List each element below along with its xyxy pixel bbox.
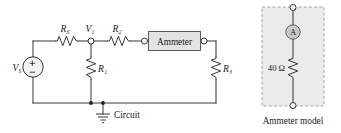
resistor-r3-label-sub: 3	[228, 69, 232, 75]
voltage-source: V S	[13, 57, 44, 77]
resistor-r2-label-sub: 2	[119, 29, 122, 35]
ammeter-meter-symbol: A	[286, 25, 300, 39]
circuit-figure: V S R S V 1 R 2	[0, 0, 341, 133]
ammeter-left-terminal	[142, 38, 148, 44]
ammeter-model-top-terminal	[290, 5, 296, 11]
voltage-source-circle	[23, 57, 43, 77]
ammeter-meter-label: A	[290, 27, 297, 37]
junction-dot-r1	[89, 101, 93, 105]
resistor-r1: R 1	[86, 56, 107, 80]
resistor-r1-zigzag	[86, 56, 95, 80]
node-v1-terminal	[88, 38, 94, 44]
ammeter-model-caption: Ammeter model	[263, 116, 324, 126]
ammeter-box-label: Ammeter	[157, 37, 193, 47]
circuit-caption: Circuit	[114, 110, 140, 120]
resistor-rs-label-sub: S	[67, 29, 70, 35]
resistor-r3: R 3	[211, 56, 232, 80]
ammeter-model-bottom-terminal	[290, 103, 296, 109]
circuit-wires	[33, 41, 216, 114]
resistor-r1-label-sub: 1	[104, 69, 107, 75]
resistor-r2: R 2	[107, 24, 131, 46]
ammeter-right-terminal	[201, 38, 207, 44]
circuit-panel: V S R S V 1 R 2	[13, 24, 233, 123]
resistor-r1-label: R	[97, 64, 104, 74]
node-v1-label-sub: 1	[92, 29, 95, 35]
resistor-rs-zigzag	[55, 36, 79, 45]
resistor-r2-zigzag	[107, 36, 131, 45]
resistor-rs-label: R	[60, 24, 67, 34]
resistor-r2-label: R	[112, 24, 119, 34]
resistor-r3-label: R	[222, 64, 229, 74]
figure-root: V S R S V 1 R 2	[0, 0, 341, 133]
ammeter-box[interactable]: Ammeter	[142, 32, 208, 51]
resistor-internal-value: 40 Ω	[268, 63, 285, 73]
voltage-source-label-sub: S	[19, 68, 22, 74]
junction-dot-ground	[101, 101, 105, 105]
resistor-rs: R S	[55, 24, 79, 46]
resistor-r3-zigzag	[211, 56, 220, 80]
ground-symbol	[96, 114, 110, 123]
ammeter-model-panel: A 40 Ω Ammeter model	[262, 5, 324, 127]
